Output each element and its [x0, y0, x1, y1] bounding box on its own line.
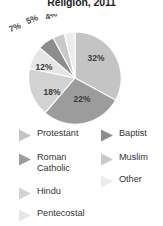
triangle-marker-icon [100, 129, 114, 142]
legend-label-other: Other [119, 174, 142, 185]
slice-value-label-18: 18% [44, 87, 61, 97]
slice-value-label-7: 7% [7, 20, 22, 34]
legend-item-muslim[interactable]: Muslim [100, 152, 148, 166]
slice-value-label-4: 4% [43, 14, 58, 22]
triangle-marker-icon [18, 209, 32, 222]
legend-item-hindu[interactable]: Hindu [18, 186, 61, 200]
slice-value-label-32: 32% [88, 53, 105, 63]
triangle-marker-icon [18, 153, 32, 166]
chart-legend: Protestant Roman Catholic Hindu Pentecos… [0, 128, 163, 226]
legend-item-protestant[interactable]: Protestant [18, 128, 78, 142]
legend-item-roman-catholic[interactable]: Roman Catholic [18, 152, 70, 175]
legend-item-other[interactable]: Other [100, 174, 142, 188]
pie-svg: 32% 22% 18% 12% 7% 5% 4% [0, 14, 163, 129]
slice-value-label-22: 22% [74, 94, 91, 104]
slice-value-label-5: 5% [24, 14, 39, 26]
triangle-marker-icon [100, 153, 114, 166]
legend-label-muslim: Muslim [119, 152, 148, 163]
chart-title: Religion, 2011 [0, 0, 163, 8]
legend-item-baptist[interactable]: Baptist [100, 128, 147, 142]
triangle-marker-icon [100, 175, 114, 188]
triangle-marker-icon [18, 187, 32, 200]
legend-item-pentecostal[interactable]: Pentecostal [18, 208, 84, 222]
pie-chart-area: 32% 22% 18% 12% 7% 5% 4% [0, 14, 163, 129]
pie-chart-figure: Religion, 2011 32% 22% 18% 12% 7% [0, 0, 163, 226]
legend-label-protestant: Protestant [37, 128, 78, 139]
legend-label-roman-catholic: Roman Catholic [37, 152, 70, 175]
legend-label-pentecostal: Pentecostal [37, 208, 84, 219]
triangle-marker-icon [18, 129, 32, 142]
slice-value-label-12: 12% [36, 62, 53, 72]
legend-label-baptist: Baptist [119, 128, 147, 139]
legend-label-hindu: Hindu [37, 186, 61, 197]
